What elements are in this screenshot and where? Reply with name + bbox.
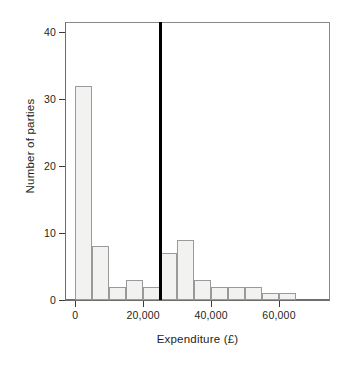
histogram-bar [279,293,296,300]
histogram-bar [75,86,92,300]
histogram-bar [245,287,262,300]
reference-line-annotation [159,22,162,300]
y-axis-line [65,22,66,300]
histogram-bar [177,240,194,300]
histogram-bar [194,280,211,300]
x-axis-tick-mark [211,301,212,307]
histogram-bar [109,287,126,300]
x-axis-tick-mark [279,301,280,307]
histogram-bar [143,287,160,300]
y-axis-tick-label: 40 [16,27,56,38]
y-axis-tick-label: 0 [16,295,56,306]
y-axis-tick-mark [59,166,65,167]
histogram-figure: 010203040 020,00040,00060,000 Expenditur… [0,0,345,366]
histogram-bar [92,246,109,300]
histogram-bar [211,287,228,300]
y-axis-tick-label: 20 [16,161,56,172]
y-axis-tick-label: 10 [16,228,56,239]
histogram-bar [228,287,245,300]
histogram-bar [126,280,143,300]
y-axis-tick-mark [59,300,65,301]
x-axis-tick-label: 0 [40,310,110,321]
y-axis-tick-mark [59,32,65,33]
x-axis-tick-mark [143,301,144,307]
y-axis-tick-label: 30 [16,94,56,105]
x-axis-tick-label: 40,000 [176,310,246,321]
x-axis-title: Expenditure (£) [65,333,330,345]
y-axis-tick-mark [59,233,65,234]
x-axis-tick-label: 20,000 [108,310,178,321]
y-axis-tick-mark [59,99,65,100]
histogram-bar [160,253,177,300]
x-axis-tick-mark [75,301,76,307]
x-axis-tick-label: 60,000 [244,310,314,321]
x-axis-line [65,300,330,301]
y-axis-title: Number of parties [24,56,36,236]
histogram-bar [262,293,279,300]
